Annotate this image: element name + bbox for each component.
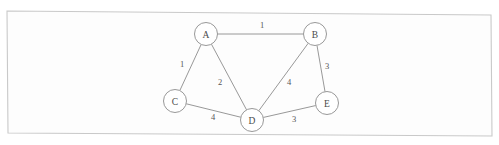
graph-edge-a-d bbox=[211, 44, 246, 110]
node-label-c: C bbox=[172, 97, 178, 107]
edge-weight-d-e: 3 bbox=[292, 114, 296, 124]
graph-canvas: 1124343 ABCDE bbox=[0, 0, 499, 145]
node-label-d: D bbox=[249, 116, 256, 126]
nodes-group: ABCDE bbox=[164, 23, 339, 132]
edge-weight-a-d: 2 bbox=[218, 77, 222, 87]
graph-edge-d-e bbox=[263, 106, 316, 118]
node-label-e: E bbox=[324, 99, 330, 109]
edges-group bbox=[180, 34, 325, 117]
edge-weight-a-b: 1 bbox=[260, 20, 264, 30]
edge-weight-b-e: 3 bbox=[325, 61, 329, 71]
edge-weight-c-d: 4 bbox=[211, 112, 216, 122]
graph-edge-b-e bbox=[317, 45, 325, 91]
node-label-a: A bbox=[203, 30, 210, 40]
graph-node-c: C bbox=[164, 90, 187, 113]
graph-node-e: E bbox=[316, 92, 339, 115]
graph-node-b: B bbox=[304, 23, 327, 46]
graph-node-a: A bbox=[195, 23, 218, 46]
edge-weight-a-c: 1 bbox=[180, 59, 184, 69]
edge-weight-b-d: 4 bbox=[287, 77, 292, 87]
graph-edge-b-d bbox=[259, 43, 308, 110]
graph-diagram-page: 1124343 ABCDE bbox=[0, 0, 499, 145]
graph-node-d: D bbox=[241, 109, 264, 132]
node-label-b: B bbox=[312, 30, 318, 40]
